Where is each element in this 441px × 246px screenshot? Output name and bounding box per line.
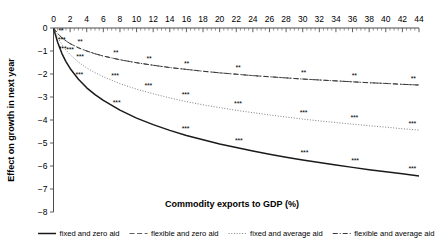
x-tick-label: 36	[348, 14, 358, 24]
x-tick-label: 32	[315, 14, 325, 24]
x-tick-label: 38	[364, 14, 374, 24]
y-axis-ticks	[50, 28, 54, 212]
x-tick-label: 30	[298, 14, 308, 24]
growth-effect-line-chart: Effect on growth in next year Commodity …	[0, 0, 441, 246]
significance-marker: ***	[351, 157, 359, 164]
x-tick-label: 42	[398, 14, 408, 24]
x-tick-label: 28	[281, 14, 291, 24]
significance-marker: ***	[300, 109, 308, 116]
significance-marker: **	[146, 55, 152, 62]
significance-marker: **	[411, 75, 417, 82]
significance-marker: **	[113, 49, 119, 56]
x-tick-label: 12	[148, 14, 158, 24]
x-tick-label: 22	[232, 14, 242, 24]
significance-annotations: ****************************************…	[58, 27, 417, 172]
axis-lines	[54, 28, 420, 212]
significance-marker: **	[58, 27, 64, 34]
x-tick-label: 34	[331, 14, 341, 24]
y-tick-label: −7	[38, 184, 48, 194]
significance-marker: **	[301, 69, 307, 76]
x-tick-label: 18	[198, 14, 208, 24]
y-tick-label: −8	[38, 207, 48, 217]
x-tick-label: 40	[381, 14, 391, 24]
significance-marker: **	[235, 64, 241, 71]
significance-marker: ***	[111, 72, 119, 79]
x-tick-label: 20	[215, 14, 225, 24]
y-tick-label: −2	[38, 69, 48, 79]
x-tick-label: 10	[132, 14, 142, 24]
y-tick-label: −1	[38, 46, 48, 56]
legend-label-1[interactable]: flexible and zero aid	[151, 229, 219, 238]
x-axis-ticks	[54, 28, 420, 32]
x-axis-title: Commodity exports to GDP (%)	[165, 199, 299, 209]
x-tick-label: 26	[265, 14, 275, 24]
y-axis-tick-labels: 0−1−2−3−4−5−6−7−8	[38, 23, 48, 217]
x-tick-label: 44	[414, 14, 424, 24]
legend-label-3[interactable]: flexible and average aid	[354, 229, 434, 238]
x-tick-label: 8	[118, 14, 123, 24]
significance-marker: ***	[182, 125, 190, 132]
series-line-3	[54, 28, 420, 85]
significance-marker: **	[352, 72, 358, 79]
y-axis-title: Effect on growth in next year	[6, 58, 16, 182]
x-tick-label: 16	[182, 14, 192, 24]
significance-marker: ***	[409, 120, 417, 127]
x-axis-tick-labels: 0246810121416182022242628303234363840424…	[51, 14, 424, 24]
y-tick-label: −5	[38, 138, 48, 148]
significance-marker: ***	[113, 99, 121, 106]
x-tick-label: 6	[101, 14, 106, 24]
x-tick-label: 0	[51, 14, 56, 24]
significance-marker: ***	[350, 114, 358, 121]
chart-legend: fixed and zero aidflexible and zero aidf…	[38, 229, 434, 238]
significance-marker: ***	[76, 53, 84, 60]
significance-marker: ***	[234, 100, 242, 107]
legend-label-2[interactable]: fixed and average aid	[250, 229, 323, 238]
significance-marker: ***	[144, 82, 152, 89]
y-tick-label: −4	[38, 115, 48, 125]
significance-marker: **	[78, 38, 84, 45]
series-line-2	[54, 28, 420, 130]
x-tick-label: 24	[248, 14, 258, 24]
x-tick-label: 2	[68, 14, 73, 24]
significance-marker: ***	[75, 71, 83, 78]
y-tick-label: −3	[38, 92, 48, 102]
significance-marker: **	[184, 60, 190, 67]
y-tick-label: −6	[38, 161, 48, 171]
significance-marker: ***	[409, 165, 417, 172]
legend-label-0[interactable]: fixed and zero aid	[60, 229, 120, 238]
significance-marker: ***	[182, 91, 190, 98]
significance-marker: ***	[66, 46, 74, 53]
series-line-1	[54, 28, 420, 85]
significance-marker: ***	[58, 36, 66, 43]
significance-marker: ***	[301, 149, 309, 156]
chart-figure: Effect on growth in next year Commodity …	[0, 0, 441, 246]
x-tick-label: 4	[84, 14, 89, 24]
y-tick-label: 0	[43, 23, 48, 33]
significance-marker: ***	[235, 137, 243, 144]
x-tick-label: 14	[165, 14, 175, 24]
